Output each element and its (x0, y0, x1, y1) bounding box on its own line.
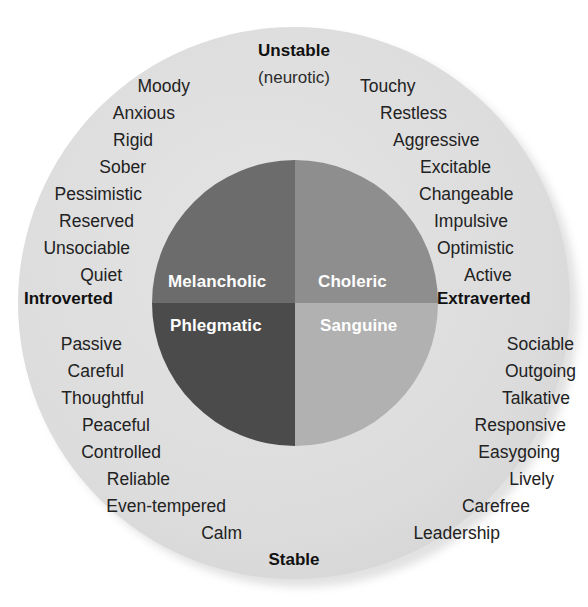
trait-melancholic-3: Sober (22, 159, 146, 177)
trait-choleric-1: Restless (380, 105, 447, 123)
trait-choleric-5: Impulsive (434, 213, 508, 231)
trait-choleric-2: Aggressive (393, 132, 480, 150)
trait-melancholic-5: Reserved (4, 213, 134, 231)
axis-label-introverted: Introverted (24, 289, 113, 309)
trait-choleric-6: Optimistic (437, 240, 514, 258)
quadrant-label-choleric: Choleric (318, 272, 387, 292)
trait-melancholic-6: Unsociable (2, 240, 130, 258)
trait-choleric-4: Changeable (419, 186, 513, 204)
trait-sanguine-0: Sociable (400, 336, 574, 354)
trait-sanguine-2: Talkative (398, 390, 570, 408)
trait-sanguine-5: Lively (390, 471, 554, 489)
trait-phlegmatic-3: Peaceful (16, 417, 150, 435)
trait-phlegmatic-6: Even-tempered (46, 498, 226, 516)
trait-melancholic-2: Rigid (28, 132, 153, 150)
trait-melancholic-4: Pessimistic (8, 186, 142, 204)
inner-quadrant-wheel (152, 160, 438, 446)
personality-circumplex-diagram: Melancholic Choleric Phlegmatic Sanguine… (0, 0, 588, 607)
trait-phlegmatic-4: Controlled (24, 444, 161, 462)
trait-choleric-3: Excitable (420, 159, 491, 177)
axis-label-unstable: Unstable (0, 41, 588, 61)
axis-label-stable: Stable (0, 550, 588, 570)
quadrant-label-melancholic: Melancholic (168, 272, 266, 292)
trait-phlegmatic-7: Calm (92, 525, 242, 543)
trait-sanguine-3: Responsive (380, 417, 566, 435)
trait-phlegmatic-2: Thoughtful (4, 390, 144, 408)
trait-melancholic-0: Moody (60, 78, 190, 96)
trait-sanguine-4: Easygoing (378, 444, 560, 462)
trait-melancholic-1: Anxious (40, 105, 175, 123)
quadrant-label-sanguine: Sanguine (320, 316, 397, 336)
trait-choleric-0: Touchy (360, 78, 415, 96)
trait-choleric-7: Active (464, 267, 512, 285)
quadrant-label-phlegmatic: Phlegmatic (170, 316, 262, 336)
trait-sanguine-6: Carefree (350, 498, 530, 516)
trait-sanguine-7: Leadership (300, 525, 500, 543)
trait-sanguine-1: Outgoing (400, 363, 576, 381)
trait-phlegmatic-1: Careful (0, 363, 124, 381)
axis-label-extraverted: Extraverted (437, 289, 531, 309)
trait-melancholic-7: Quiet (2, 267, 122, 285)
trait-phlegmatic-5: Reliable (42, 471, 170, 489)
trait-phlegmatic-0: Passive (0, 336, 122, 354)
